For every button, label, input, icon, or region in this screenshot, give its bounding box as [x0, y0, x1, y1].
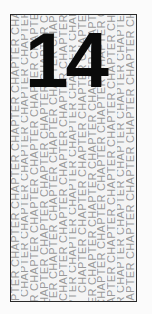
pattern-column: CHAPTER CHAPTER CHAPTER CHAPTER CHAPTER … — [117, 15, 127, 301]
pattern-column: CHAPTER CHAPTER CHAPTER CHAPTER CHAPTER … — [126, 15, 136, 301]
chapter-badge: CHAPTER CHAPTER CHAPTER CHAPTER CHAPTER … — [10, 14, 137, 302]
pattern-column: CHAPTER CHAPTER CHAPTER CHAPTER CHAPTER … — [11, 15, 21, 301]
pattern-column: CHAPTER CHAPTER CHAPTER CHAPTER CHAPTER … — [107, 15, 117, 301]
pattern-text: CHAPTER CHAPTER CHAPTER CHAPTER CHAPTER … — [117, 15, 127, 301]
pattern-text: CHAPTER CHAPTER CHAPTER CHAPTER CHAPTER … — [107, 15, 117, 301]
chapter-number: 14 — [25, 21, 106, 99]
pattern-text: CHAPTER CHAPTER CHAPTER CHAPTER CHAPTER … — [126, 15, 136, 301]
pattern-text: CHAPTER CHAPTER CHAPTER CHAPTER CHAPTER … — [11, 15, 21, 301]
